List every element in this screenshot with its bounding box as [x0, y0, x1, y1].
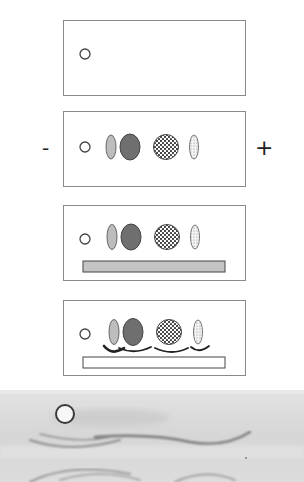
gel-photo-graphics [0, 390, 304, 482]
dotted-circle-band-icon [157, 320, 182, 345]
panel-2-graphics [64, 112, 247, 188]
dark-oval-band-icon [121, 224, 141, 250]
sample-well-icon [80, 49, 90, 59]
light-oval-band-icon [109, 320, 119, 345]
antiserum-trough [83, 357, 225, 368]
antiserum-trough-filled [83, 261, 225, 272]
panel-step-2 [63, 111, 246, 187]
sample-well-icon [80, 234, 90, 244]
dark-oval-band-icon [123, 319, 143, 346]
light-oval-band-icon [106, 135, 116, 159]
panel-4-graphics [64, 301, 247, 377]
sample-well-icon [80, 142, 90, 152]
hatched-oval-band-icon [190, 135, 199, 159]
dark-oval-band-icon [120, 134, 140, 160]
sample-well-icon [80, 329, 90, 339]
precipitin-arc-3 [155, 348, 188, 352]
hatched-oval-band-icon [194, 320, 203, 344]
hatched-oval-band-icon [191, 225, 200, 249]
photo-sample-well-icon [56, 405, 74, 423]
negative-electrode-label: - [42, 138, 49, 158]
panel-step-3 [63, 205, 246, 281]
gel-photograph [0, 390, 304, 482]
precipitin-arc-4 [191, 346, 209, 350]
dotted-circle-band-icon [155, 225, 180, 250]
panel-step-4 [63, 300, 246, 376]
light-oval-band-icon [107, 225, 117, 250]
panel-3-graphics [64, 206, 247, 282]
positive-electrode-label: + [255, 137, 273, 159]
panel-step-1 [63, 20, 246, 96]
precipitin-arcs [104, 346, 209, 352]
dotted-circle-band-icon [154, 135, 179, 160]
panel-1-graphics [64, 21, 247, 97]
